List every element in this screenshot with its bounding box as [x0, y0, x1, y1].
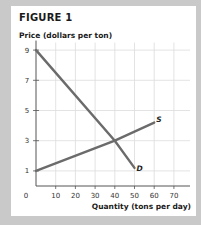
grid-lines: [36, 43, 190, 186]
y-tick-label: 7: [25, 77, 29, 85]
y-tick-label: 5: [25, 107, 29, 115]
x-tick-label: 60: [150, 192, 159, 200]
x-tick-label: 70: [169, 192, 178, 200]
x-tick-label: 40: [110, 192, 119, 200]
y-tick-label: 3: [25, 137, 29, 145]
curve-labels: DS: [136, 115, 161, 174]
x-tick-label: 30: [91, 192, 100, 200]
y-tick-label: 1: [25, 167, 29, 175]
x-tick-label: 10: [51, 192, 60, 200]
x-tick-label: 0: [24, 192, 28, 200]
curve-d: [36, 50, 135, 168]
x-tick-label: 50: [130, 192, 139, 200]
chart-plot: 01020304050607013579 DS: [0, 0, 201, 225]
x-tick-label: 20: [71, 192, 80, 200]
curve-label-d: D: [136, 164, 142, 173]
y-tick-label: 9: [25, 47, 29, 55]
curve-label-s: S: [156, 115, 161, 124]
axes: [33, 41, 190, 189]
